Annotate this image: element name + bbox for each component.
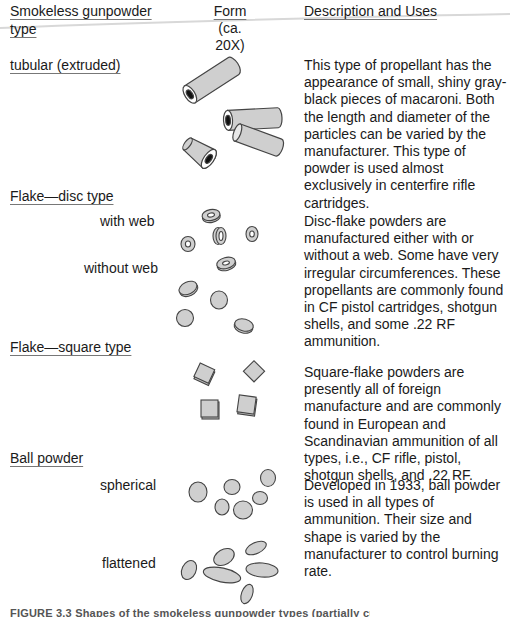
figure-caption: FIGURE 3.3 Shapes of the smokeless gunpo… — [10, 607, 370, 617]
